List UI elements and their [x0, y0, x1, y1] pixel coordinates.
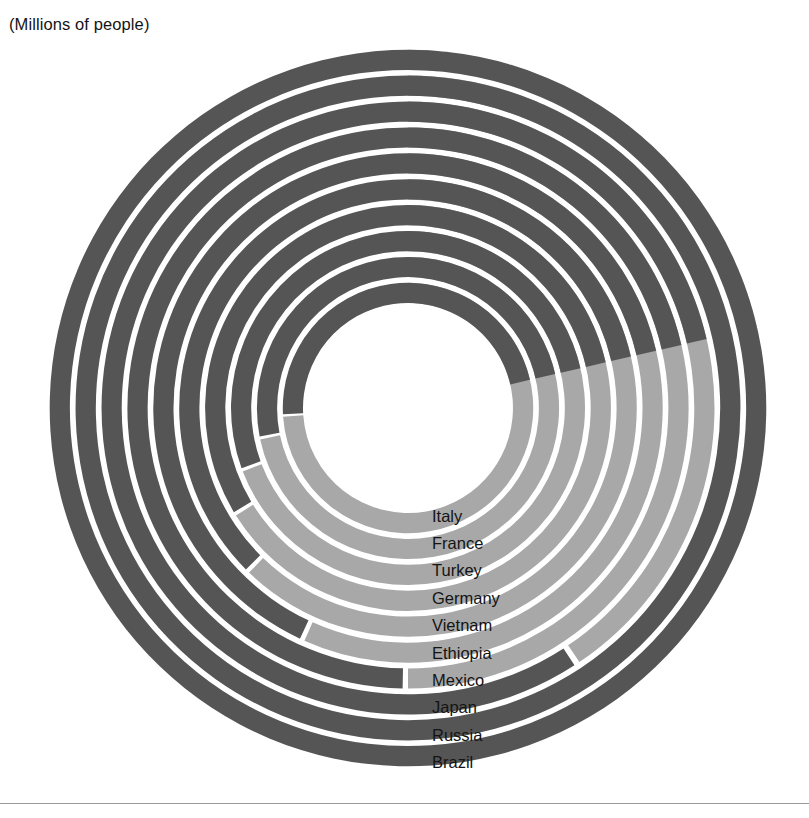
- legend-item-brazil[interactable]: Brazil: [432, 749, 662, 776]
- radial-chart: (Millions of people) ItalyFranceTurkeyGe…: [0, 0, 809, 818]
- legend-item-label: Japan: [432, 697, 477, 717]
- legend-item-russia[interactable]: Russia: [432, 721, 662, 748]
- legend-item-label: Turkey: [432, 560, 482, 580]
- legend-item-italy[interactable]: Italy: [432, 502, 662, 529]
- legend-item-label: Brazil: [432, 752, 473, 772]
- legend-item-label: Mexico: [432, 670, 484, 690]
- legend-item-ethiopia[interactable]: Ethiopia: [432, 639, 662, 666]
- legend-item-label: France: [432, 533, 483, 553]
- legend-item-vietnam[interactable]: Vietnam: [432, 612, 662, 639]
- legend-item-label: Vietnam: [432, 615, 492, 635]
- radial-bar-svg: [0, 0, 809, 818]
- ring-italy[interactable]: [283, 283, 533, 533]
- legend: ItalyFranceTurkeyGermanyVietnamEthiopiaM…: [432, 502, 662, 776]
- legend-item-japan[interactable]: Japan: [432, 694, 662, 721]
- legend-item-germany[interactable]: Germany: [432, 584, 662, 611]
- legend-item-mexico[interactable]: Mexico: [432, 666, 662, 693]
- legend-item-france[interactable]: France: [432, 529, 662, 556]
- legend-item-label: Italy: [432, 506, 462, 526]
- legend-item-label: Germany: [432, 588, 500, 608]
- legend-item-label: Ethiopia: [432, 643, 492, 663]
- legend-item-turkey[interactable]: Turkey: [432, 557, 662, 584]
- legend-item-label: Russia: [432, 725, 482, 745]
- footer-divider: [0, 803, 809, 804]
